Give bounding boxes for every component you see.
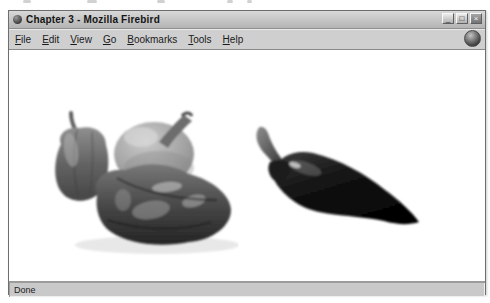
menu-item-help[interactable]: Help xyxy=(223,34,244,45)
status-text: Done xyxy=(14,285,36,295)
window-controls: _□× xyxy=(442,13,482,24)
bell-peppers-image xyxy=(47,108,239,258)
menu-item-bookmarks[interactable]: Bookmarks xyxy=(127,34,177,45)
minimize-button[interactable]: _ xyxy=(442,13,454,24)
page-content xyxy=(9,50,485,281)
menu-bar: FileEditViewGoBookmarksToolsHelp xyxy=(9,29,485,50)
scan-artifact xyxy=(23,0,31,3)
scan-artifact xyxy=(227,0,233,3)
menu-item-view[interactable]: View xyxy=(70,34,92,45)
scan-artifact xyxy=(87,0,97,3)
chili-pepper-image xyxy=(251,122,427,236)
title-bar: Chapter 3 - Mozilla Firebird _□× xyxy=(9,11,485,29)
browser-window: Chapter 3 - Mozilla Firebird _□× FileEdi… xyxy=(8,10,486,295)
status-bar: Done xyxy=(9,281,485,297)
menu-item-go[interactable]: Go xyxy=(103,34,116,45)
firebird-app-icon xyxy=(13,15,22,24)
scan-artifact xyxy=(157,0,165,3)
menu-item-file[interactable]: File xyxy=(15,34,31,45)
close-button[interactable]: × xyxy=(470,13,482,24)
mozilla-throbber-icon[interactable] xyxy=(464,30,481,47)
scan-artifact xyxy=(247,0,252,3)
menu-item-tools[interactable]: Tools xyxy=(188,34,211,45)
window-title: Chapter 3 - Mozilla Firebird xyxy=(26,14,160,25)
menu-item-edit[interactable]: Edit xyxy=(42,34,59,45)
menu-bar-items: FileEditViewGoBookmarksToolsHelp xyxy=(15,34,243,45)
maximize-button[interactable]: □ xyxy=(456,13,468,24)
